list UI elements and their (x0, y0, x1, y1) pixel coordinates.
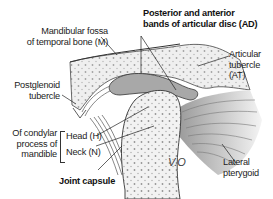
head-label: Head (H) (66, 131, 102, 142)
condylar-process-label: Of condylar process of mandible (2, 128, 57, 160)
articular-disc-label-line2: bands of articular disc (AD) (143, 19, 257, 30)
articular-disc-label-line1: Posterior and anterior (143, 8, 257, 19)
bracket (60, 131, 65, 163)
mandibular-fossa-line1: Mandibular fossa (8, 26, 108, 37)
articular-tubercle-line1: Articular (229, 49, 273, 60)
lateral-pterygoid-line1: Lateral (223, 157, 259, 168)
artist-signature: V.O (168, 157, 186, 168)
mandibular-condyle (121, 90, 180, 199)
mandibular-fossa-line2: of temporal bone (M) (8, 37, 108, 48)
postglenoid-tubercle-label: Postglenoid tubercle (2, 80, 60, 101)
condylar-line2: process of (2, 139, 57, 150)
articular-disc-label: Posterior and anterior bands of articula… (143, 8, 257, 29)
neck-label: Neck (N) (66, 147, 101, 158)
articular-tubercle-label: Articular tubercle (AT) (229, 49, 273, 81)
postglenoid-line1: Postglenoid (2, 80, 60, 91)
joint-capsule-label: Joint capsule (59, 176, 115, 187)
mandibular-fossa-label: Mandibular fossa of temporal bone (M) (8, 26, 108, 47)
articular-tubercle-line2: tubercle (AT) (229, 60, 273, 81)
condylar-line1: Of condylar (2, 128, 57, 139)
lateral-pterygoid-line2: pterygoid (223, 168, 259, 179)
condylar-line3: mandible (2, 149, 57, 160)
postglenoid-line2: tubercle (2, 91, 60, 102)
lateral-pterygoid-label: Lateral pterygoid (223, 157, 259, 178)
